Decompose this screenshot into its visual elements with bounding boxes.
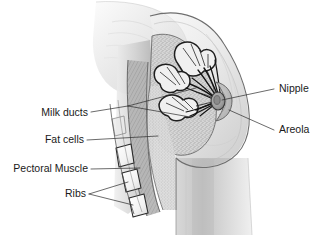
rib-cross-section <box>129 194 148 217</box>
label-nipple: Nipple <box>279 82 309 94</box>
label-pectoral-muscle: Pectoral Muscle <box>13 162 88 174</box>
label-areola: Areola <box>279 123 310 135</box>
label-milk-ducts: Milk ducts <box>41 106 88 118</box>
trunk-region <box>176 158 252 235</box>
label-ribs: Ribs <box>65 187 86 199</box>
rib-cross-section <box>122 169 141 192</box>
label-fat-cells: Fat cells <box>45 133 84 145</box>
breast-anatomy-diagram: Milk ducts Fat cells Pectoral Muscle Rib… <box>0 0 328 235</box>
anatomy-illustration: Milk ducts Fat cells Pectoral Muscle Rib… <box>0 0 328 235</box>
